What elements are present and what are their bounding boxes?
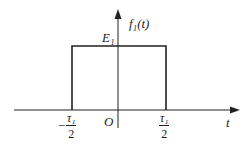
left-edge-label: τ₁ 2 (66, 112, 76, 140)
left-edge-numerator: τ₁ (66, 112, 76, 126)
left-edge-denominator: 2 (66, 126, 76, 140)
y-axis-arrow-icon (115, 9, 122, 19)
pulse-waveform (72, 46, 166, 110)
right-edge-label: τ₁ 2 (159, 112, 169, 140)
pulse-diagram (0, 0, 249, 153)
right-edge-numerator: τ₁ (159, 112, 169, 126)
origin-label: O (104, 115, 113, 128)
x-axis-arrow-icon (230, 107, 240, 114)
right-edge-denominator: 2 (159, 126, 169, 140)
x-axis-label: t (226, 116, 230, 129)
left-edge-sign: − (58, 119, 65, 132)
y-axis-label: f₁(t) (129, 17, 149, 30)
amplitude-label: E₁ (102, 31, 114, 44)
